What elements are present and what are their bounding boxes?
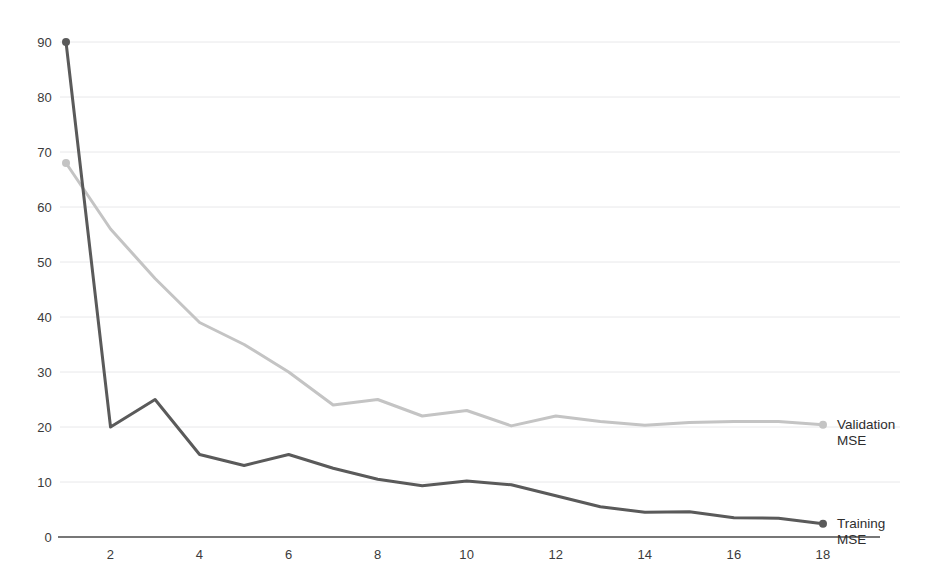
series-line	[66, 42, 823, 524]
x-axis-tick-label: 18	[816, 547, 831, 562]
series-label: Validation MSE	[837, 417, 895, 449]
x-axis-tick-label: 16	[727, 547, 742, 562]
x-axis-tick-label: 12	[548, 547, 563, 562]
y-axis-tick-label: 70	[0, 145, 52, 160]
x-axis-tick-label: 8	[374, 547, 381, 562]
x-axis-tick-label: 2	[107, 547, 114, 562]
series-lines	[66, 42, 823, 524]
y-axis-tick-label: 10	[0, 475, 52, 490]
y-axis-tick-label: 20	[0, 420, 52, 435]
x-axis-tick-label: 10	[459, 547, 474, 562]
series-label: Training MSE	[837, 516, 885, 548]
y-axis-tick-label: 80	[0, 90, 52, 105]
x-axis-tick-label: 6	[285, 547, 292, 562]
series-line	[66, 163, 823, 426]
y-axis-tick-label: 0	[0, 530, 52, 545]
x-axis-tick-label: 4	[196, 547, 203, 562]
series-endpoint-marker	[62, 38, 70, 46]
y-axis-tick-label: 40	[0, 310, 52, 325]
y-axis-tick-label: 50	[0, 255, 52, 270]
plot-area	[0, 0, 941, 581]
y-axis-tick-label: 90	[0, 35, 52, 50]
series-endpoint-marker	[62, 159, 70, 167]
y-axis-tick-label: 30	[0, 365, 52, 380]
y-axis-tick-label: 60	[0, 200, 52, 215]
series-endpoint-marker	[819, 421, 827, 429]
line-chart: 0102030405060708090 24681012141618 Valid…	[0, 0, 941, 581]
series-endpoint-marker	[819, 520, 827, 528]
x-axis-tick-label: 14	[637, 547, 652, 562]
series-markers	[62, 38, 827, 528]
